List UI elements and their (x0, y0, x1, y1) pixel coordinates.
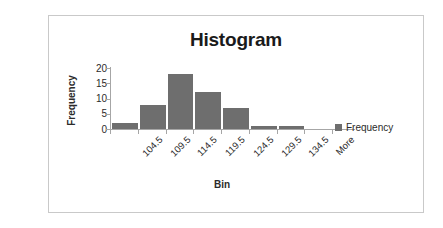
x-tick-label-129.5: 129.5 (279, 134, 304, 159)
x-tick-mark-7 (304, 130, 305, 134)
chart-title: Histogram (49, 29, 423, 51)
legend-label-frequency: Frequency (346, 122, 393, 133)
y-axis-title-text: Frequency (66, 75, 77, 126)
y-tick-mark-5 (106, 114, 110, 115)
chart-card: Histogram Frequency 05101520 104.5109.51… (48, 15, 424, 213)
x-tick-label-More: More (333, 134, 356, 157)
bar-119.5[interactable] (195, 92, 221, 129)
y-tick-mark-15 (106, 83, 110, 84)
legend-swatch-frequency (335, 124, 342, 131)
bar-114.5[interactable] (168, 74, 194, 129)
x-tick-label-119.5: 119.5 (223, 134, 247, 158)
x-tick-mark-8 (332, 130, 333, 134)
bar-134.5[interactable] (279, 126, 305, 129)
x-tick-mark-2 (166, 130, 167, 134)
x-tick-label-109.5: 109.5 (168, 134, 193, 159)
bar-129.5[interactable] (251, 126, 277, 129)
x-tick-mark-1 (138, 130, 139, 134)
bar-109.5[interactable] (140, 105, 166, 129)
x-tick-mark-3 (193, 130, 194, 134)
plot-area (111, 68, 333, 129)
x-tick-label-104.5: 104.5 (140, 134, 165, 159)
y-axis-title: Frequency (63, 62, 79, 138)
x-axis-title: Bin (111, 179, 333, 190)
bar-104.5[interactable] (112, 123, 138, 129)
x-tick-label-134.5: 134.5 (306, 134, 331, 159)
x-tick-mark-4 (221, 130, 222, 134)
bar-124.5[interactable] (223, 108, 249, 129)
x-tick-mark-6 (277, 130, 278, 134)
x-tick-label-124.5: 124.5 (251, 134, 276, 159)
x-tick-mark-0 (110, 130, 111, 134)
y-tick-mark-10 (106, 99, 110, 100)
x-tick-label-114.5: 114.5 (195, 134, 219, 158)
chart-legend: Frequency (335, 122, 393, 133)
x-tick-mark-5 (249, 130, 250, 134)
x-axis-line (110, 129, 355, 130)
y-tick-mark-20 (106, 68, 110, 69)
y-axis-tick-labels: 05101520 (81, 62, 107, 135)
x-axis-tick-labels: 104.5109.5114.5119.5124.5129.5134.5More (111, 134, 361, 176)
